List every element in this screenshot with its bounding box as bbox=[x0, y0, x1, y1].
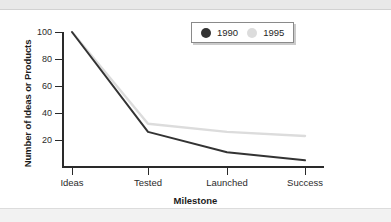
x-axis-title: Milestone bbox=[0, 195, 391, 206]
legend-marker-circle-icon bbox=[247, 28, 257, 38]
legend-entry-1995[interactable]: 1995 bbox=[247, 27, 284, 38]
series-line-1990 bbox=[72, 32, 305, 160]
page-band-bottom bbox=[0, 209, 391, 222]
legend-label-1995: 1995 bbox=[263, 27, 284, 38]
legend-marker-circle-icon bbox=[201, 28, 211, 38]
chart-screenshot: Number of Ideas or Products 20 40 60 80 … bbox=[0, 0, 391, 222]
line-chart: Number of Ideas or Products 20 40 60 80 … bbox=[0, 10, 391, 208]
legend-label-1990: 1990 bbox=[217, 27, 238, 38]
series-line-1995 bbox=[72, 32, 305, 136]
page-band-top bbox=[0, 0, 391, 9]
legend-entry-1990[interactable]: 1990 bbox=[201, 27, 238, 38]
chart-legend: 1990 1995 bbox=[191, 22, 294, 43]
